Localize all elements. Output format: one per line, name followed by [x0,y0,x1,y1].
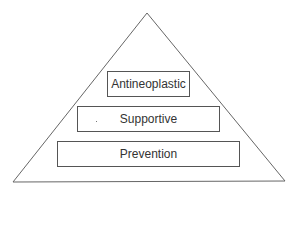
level-supportive: Supportive [77,106,220,132]
level-antineoplastic: Antineoplastic [107,71,190,97]
level-label: Supportive [120,112,177,126]
level-label: Antineoplastic [111,77,186,91]
level-prevention: Prevention [57,141,240,167]
level-label: Prevention [120,147,177,161]
stray-dot [96,121,97,122]
